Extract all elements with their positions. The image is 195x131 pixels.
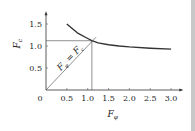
series-curve	[67, 24, 171, 49]
y-axis-arrow	[45, 11, 48, 15]
x-axis-label: Fφ	[106, 109, 118, 121]
x-tick-label: 2.5	[144, 94, 157, 103]
series-diagonal	[46, 37, 96, 90]
x-tick-label: 0.5	[60, 94, 73, 103]
x-tick-label: 1.5	[102, 94, 115, 103]
origin-label: 0	[37, 94, 42, 103]
x-tick-label: 2.0	[123, 94, 136, 103]
chart: 0.51.01.52.02.53.000.51.01.5FφFcFφ = Fc	[0, 0, 195, 131]
x-tick-label: 3.0	[165, 94, 178, 103]
scrollbar[interactable]	[191, 0, 195, 131]
x-axis-arrow	[179, 89, 183, 92]
labels: 0.51.01.52.02.53.000.51.01.5FφFcFφ = Fc	[12, 20, 177, 121]
y-tick-label: 0.5	[29, 64, 42, 73]
diagonal-annotation: Fφ = Fc	[54, 42, 86, 74]
x-tick-label: 1.0	[81, 94, 94, 103]
y-tick-label: 1.5	[29, 20, 42, 29]
y-axis-label: Fc	[12, 38, 23, 49]
y-tick-label: 1.0	[29, 42, 42, 51]
axes	[45, 11, 184, 91]
